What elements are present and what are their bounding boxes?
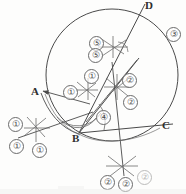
step-marker: ③ [166,27,181,42]
step-marker: ② [123,95,138,110]
step-marker: ① [63,85,78,100]
geometry-canvas [0,0,186,194]
point-label-C: C [162,120,170,131]
point-label-B: B [72,133,79,144]
construction-diagram: A B C D ① ① ① ① ① ② ② ② ② ② ③ ④ ⑤ ⑤ [0,0,186,194]
step-marker: ① [8,117,23,132]
step-marker: ① [32,143,47,158]
step-marker: ② [137,170,152,185]
step-marker: ⑤ [88,48,103,63]
point-label-D: D [145,0,153,11]
scan-artifact [58,186,84,189]
scan-artifact [0,189,186,194]
cross-mark-lower-left [24,117,50,142]
step-marker: ① [9,139,24,154]
step-marker: ④ [96,110,111,125]
step-marker: ① [84,69,99,84]
point-label-A: A [31,86,39,97]
step-marker: ② [122,73,137,88]
step-marker: ② [100,175,115,190]
